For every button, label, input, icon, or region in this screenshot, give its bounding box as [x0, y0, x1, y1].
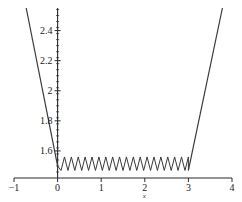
x-axis-tick-label: 1	[87, 183, 115, 193]
y-axis-tick-label: 2	[0, 86, 53, 96]
chart-figure: 1.61.822.22.4−101234x	[0, 0, 242, 202]
x-axis-tick-label: −1	[0, 183, 28, 193]
y-axis-tick-label: 1.6	[0, 146, 53, 156]
y-axis-tick-label: 2.2	[0, 56, 53, 66]
x-axis-tick-label: 3	[174, 183, 202, 193]
x-axis-tick-label: 4	[218, 183, 242, 193]
y-axis-tick-label: 2.4	[0, 26, 53, 36]
x-axis-tick-label: 0	[44, 183, 72, 193]
y-axis-tick-label: 1.8	[0, 116, 53, 126]
x-axis-label: x	[143, 193, 146, 200]
